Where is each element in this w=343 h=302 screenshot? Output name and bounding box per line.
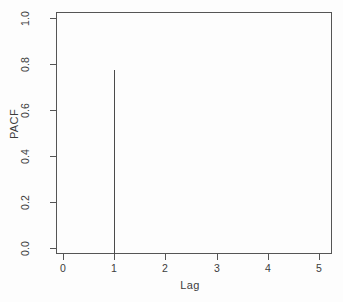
data-layer	[56, 12, 332, 254]
y-ticklabel-1: 0.2	[20, 183, 31, 223]
x-ticklabel-4: 4	[253, 262, 283, 274]
y-axis-title: PACF	[8, 98, 20, 150]
x-tick-1	[114, 254, 115, 260]
x-tick-5	[319, 254, 320, 260]
y-ticklabel-2: 0.4	[20, 137, 31, 177]
y-ticklabel-3: 0.6	[20, 91, 31, 131]
x-ticklabel-2: 2	[150, 262, 180, 274]
x-tick-3	[217, 254, 218, 260]
x-ticklabel-3: 3	[202, 262, 232, 274]
x-tick-0	[63, 254, 64, 260]
y-ticklabel-5: 1.0	[20, 0, 31, 39]
y-ticklabel-4: 0.8	[20, 45, 31, 85]
x-ticklabel-5: 5	[304, 262, 334, 274]
x-ticklabel-0: 0	[48, 262, 78, 274]
pacf-plot-screenshot: 0.0 0.2 0.4 0.6 0.8 1.0 0 1 2 3 4 5 PACF…	[0, 0, 343, 302]
y-ticklabel-0: 0.0	[20, 229, 31, 269]
x-tick-2	[165, 254, 166, 260]
x-tick-4	[268, 254, 269, 260]
x-ticklabel-1: 1	[99, 262, 129, 274]
x-axis-title: Lag	[155, 279, 225, 291]
pacf-spike	[114, 70, 115, 254]
